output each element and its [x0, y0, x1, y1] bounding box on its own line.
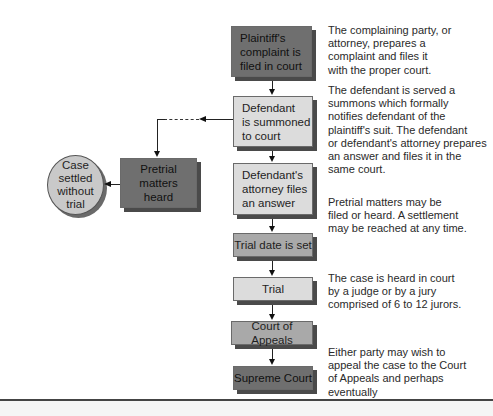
node-trial-date-set-label: Trial date is set [234, 238, 312, 252]
description-trial: The case is heard in court by a judge or… [328, 272, 461, 312]
connector-summoned-branch-dashed [164, 119, 199, 120]
arrow-down-icon [154, 151, 160, 157]
arrow-left-icon [199, 116, 206, 122]
node-defendant-summoned-label: Defendant is summoned to court [242, 101, 310, 143]
node-complaint-filed: Plaintiff's complaint is filed in court [231, 26, 312, 77]
description-summons: The defendant is served a summons which … [328, 84, 487, 176]
arrow-down-icon [269, 270, 275, 276]
node-trial: Trial [233, 277, 313, 301]
node-court-of-appeals: Court of Appeals [231, 321, 313, 345]
connector-branch-corner [157, 119, 165, 120]
description-pretrial: Pretrial matters may be filed or heard. … [328, 196, 467, 236]
arrow-down-icon [269, 89, 275, 95]
connector-branch-down [157, 119, 158, 152]
node-supreme-court: Supreme Court [233, 366, 313, 390]
connector-pretrial-settled [110, 184, 120, 185]
node-attorney-answer: Defendant's attorney files an answer [233, 163, 313, 215]
arrow-down-icon [269, 226, 275, 232]
connector-summoned-branch-solid [203, 119, 233, 120]
node-court-of-appeals-label: Court of Appeals [232, 319, 312, 347]
arrow-left-icon [104, 181, 111, 187]
footer-band [0, 401, 493, 416]
arrow-down-icon [269, 359, 275, 365]
node-trial-date-set: Trial date is set [233, 233, 313, 257]
node-case-settled: Case settled without trial [47, 155, 104, 215]
node-case-settled-label: Case settled without trial [57, 159, 93, 211]
node-complaint-filed-label: Plaintiff's complaint is filed in court [240, 31, 302, 73]
node-attorney-answer-label: Defendant's attorney files an answer [242, 168, 307, 210]
node-pretrial-matters-label: Pretrial matters heard [139, 162, 177, 204]
description-complaint: The complaining party, or attorney, prep… [328, 24, 451, 77]
node-pretrial-matters: Pretrial matters heard [120, 158, 197, 208]
node-trial-label: Trial [262, 282, 284, 296]
arrow-down-icon [269, 156, 275, 162]
node-supreme-court-label: Supreme Court [234, 371, 312, 385]
node-defendant-summoned: Defendant is summoned to court [233, 96, 313, 147]
arrow-down-icon [269, 314, 275, 320]
